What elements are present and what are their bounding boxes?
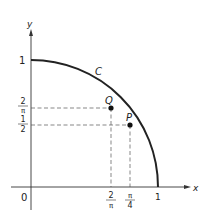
- y-tick-half-num: 1: [20, 115, 25, 124]
- x-tick-pi-over-4: π 4: [125, 192, 135, 210]
- point-q: [108, 105, 113, 110]
- quarter-circle-diagram: y x 0 C Q P 1 2 π 1 2 2 π π: [0, 0, 204, 214]
- x-tick-2pi-num: 2: [108, 191, 113, 200]
- curve-c: [31, 60, 158, 187]
- y-axis-arrow-icon: [29, 29, 33, 36]
- y-axis-label: y: [26, 19, 33, 29]
- y-tick-2pi-den: π: [21, 107, 26, 115]
- y-axis: y: [26, 19, 33, 210]
- x-tick-pi4-num: π: [128, 192, 133, 200]
- curve-label: C: [95, 66, 102, 77]
- x-tick-2-over-pi: 2 π: [106, 191, 116, 210]
- x-tick-2pi-den: π: [109, 202, 114, 210]
- y-tick-2-over-pi: 2 π: [18, 97, 28, 115]
- point-p-label: P: [126, 112, 133, 123]
- point-p: [127, 122, 132, 127]
- x-axis-arrow-icon: [184, 185, 191, 189]
- y-tick-1: 1: [19, 55, 25, 66]
- x-tick-pi4-den: 4: [127, 201, 132, 210]
- y-tick-half-den: 2: [20, 125, 25, 134]
- x-axis: x: [11, 183, 199, 193]
- x-tick-1: 1: [155, 192, 161, 202]
- y-tick-1-over-2: 1 2: [18, 115, 28, 134]
- x-axis-label: x: [192, 183, 199, 193]
- origin-label: 0: [21, 192, 27, 203]
- guide-lines: [31, 108, 130, 187]
- point-q-label: Q: [105, 95, 113, 106]
- y-tick-2pi-num: 2: [20, 97, 25, 106]
